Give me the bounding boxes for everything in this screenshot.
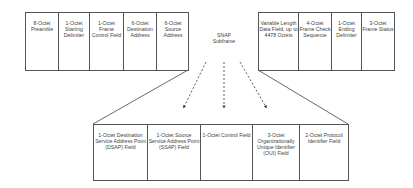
frame-left-fields: 8-Octet Preamble 1-Octet Starting Delimi… [25,12,189,71]
field-frame-control: 1-Octet Frame Control Field [90,13,124,70]
field-ending-delimiter: 1-Octet Ending Delimiter [332,13,362,70]
field-source-address: 6-Octet Source Address [157,13,189,70]
snap-subframe-fields: 1-Octet Destination Service Address Poin… [93,124,349,181]
field-protocol-identifier: 2-Octet Protocol Identifier Field [300,125,348,180]
field-ssap: 1-Octet Source Service Address Point (SS… [148,125,201,180]
field-frame-check-sequence: 4-Octet Frame Check Sequence [299,13,332,70]
expansion-line-right [258,70,348,124]
snap-subframe-label: SNAP Subframe [206,32,242,44]
field-starting-delimiter: 1-Octet Starting Delimiter [59,13,90,70]
expansion-line-left [93,70,188,124]
field-preamble: 8-Octet Preamble [26,13,59,70]
field-oui: 3-Octet Organizationally Unique Identifi… [253,125,300,180]
frame-right-fields: Variable Length Data Field, up to 4478 O… [258,12,395,71]
field-dsap: 1-Octet Destination Service Address Poin… [94,125,148,180]
field-destination-address: 6-Octet Destination Address [124,13,157,70]
field-control: 1-Octet Control Field [201,125,253,180]
field-data: Variable Length Data Field, up to 4478 O… [259,13,299,70]
field-frame-status: 3-Octet Frame Status [362,13,394,70]
